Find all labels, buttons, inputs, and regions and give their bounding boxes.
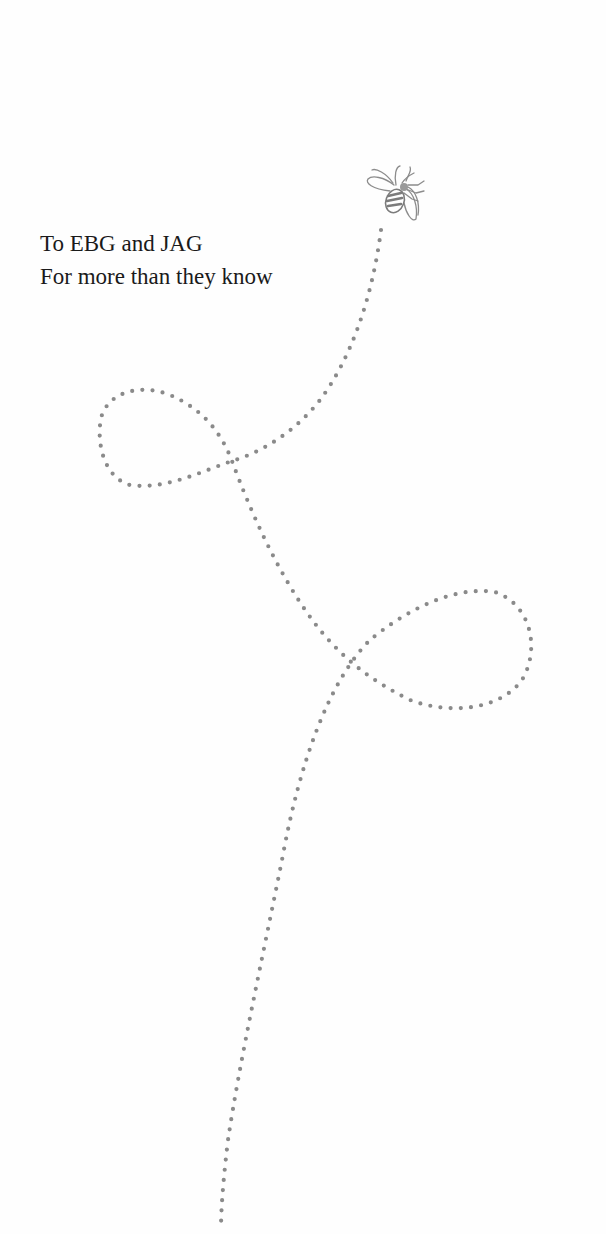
dotted-flight-path	[0, 0, 606, 1234]
bee-icon	[362, 163, 434, 229]
dedication-page: To EBG and JAG For more than they know	[0, 0, 606, 1234]
